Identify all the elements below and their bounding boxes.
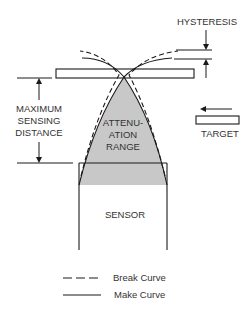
max-distance-label-3: DISTANCE [15, 127, 62, 138]
target-label: TARGET [201, 128, 239, 139]
target-icon [196, 116, 239, 124]
legend-make-curve-label: Make Curve [114, 289, 165, 300]
attenuation-label-3: RANGE [106, 141, 140, 152]
max-distance-label-1: MAXIMUM [16, 103, 62, 114]
hysteresis-label: HYSTERESIS [177, 16, 237, 27]
max-distance-label-2: SENSING [18, 115, 61, 126]
sensor-label: SENSOR [105, 209, 145, 220]
legend-break-curve-label: Break Curve [113, 272, 166, 283]
proximity-sensor-diagram: HYSTERESIS MAXIMUM SENSING DISTANCE ATTE… [0, 0, 251, 314]
attenuation-label-1: ATTENU- [103, 117, 143, 128]
attenuation-label-2: ATION [109, 129, 137, 140]
